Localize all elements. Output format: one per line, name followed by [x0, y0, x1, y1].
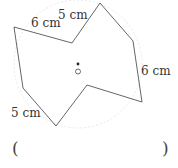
edge-length-label: 5 cm [11, 107, 41, 119]
answer-close-paren: ) [162, 140, 169, 157]
edge-length-label: 5 cm [58, 9, 88, 21]
edge-length-label: 6 cm [141, 65, 171, 77]
edge-length-label: 6 cm [31, 17, 61, 29]
center-point [77, 63, 80, 66]
center-o-glyph [76, 69, 81, 74]
answer-open-paren: ( [12, 140, 19, 157]
answer-blank[interactable] [24, 140, 156, 160]
